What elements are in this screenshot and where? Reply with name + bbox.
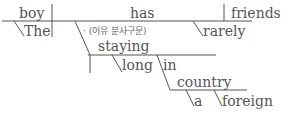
word-the: The [24,24,51,38]
word-boy: boy [19,6,44,20]
rarely-modifier-line [193,21,203,36]
word-has: has [130,6,155,20]
word-country: country [177,75,232,89]
foreign-modifier-line [214,90,222,106]
word-a: a [194,94,202,108]
the-modifier-line [14,21,24,36]
word-long: long [122,58,153,72]
word-foreign: foreign [222,94,273,108]
word-staying: staying [98,39,150,53]
a-modifier-line [186,90,194,106]
word-friends: friends [231,6,281,20]
word-in: in [163,58,177,72]
sentence-diagram: boy The has friends · (이유 분사구문) rarely s… [0,0,290,117]
word-rarely: rarely [203,24,245,38]
annotation-participle-reason: · (이유 분사구문) [83,26,147,36]
long-modifier-line [112,55,122,72]
